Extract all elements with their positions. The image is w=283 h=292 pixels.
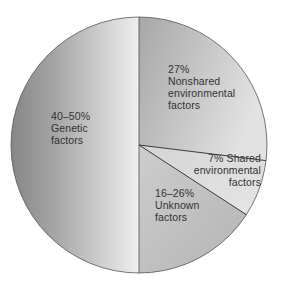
label-unknown-factors: 16–26% Unknown factors [155, 187, 199, 223]
pie-chart [0, 0, 283, 292]
label-genetic-percent: 40–50% [51, 110, 90, 122]
label-nonshared-line2: Nonshared [168, 75, 235, 87]
label-shared-line2: environmental [194, 164, 261, 176]
label-unknown-line3: factors [155, 211, 199, 223]
label-nonshared-percent: 27% [168, 63, 235, 75]
label-unknown-percent: 16–26% [155, 187, 199, 199]
label-shared-environmental: 7% Shared environmental factors [194, 152, 261, 188]
label-shared-line3: factors [194, 176, 261, 188]
label-shared-percent: 7% Shared [194, 152, 261, 164]
pie-slices [11, 17, 267, 273]
label-unknown-line2: Unknown [155, 199, 199, 211]
label-nonshared-environmental: 27% Nonshared environmental factors [168, 63, 235, 111]
label-nonshared-line3: environmental [168, 87, 235, 99]
label-genetic-line3: factors [51, 134, 90, 146]
label-nonshared-line4: factors [168, 99, 235, 111]
label-genetic-line2: Genetic [51, 122, 90, 134]
label-genetic-factors: 40–50% Genetic factors [51, 110, 90, 146]
